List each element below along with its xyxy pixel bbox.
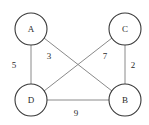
graph-node-c: C	[109, 13, 141, 45]
node-label-b: B	[122, 95, 128, 105]
node-label-d: D	[28, 95, 35, 105]
edge-weight-a-b: 3	[47, 51, 52, 61]
graph-node-d: D	[15, 84, 47, 116]
edge-weight-c-b: 2	[131, 60, 136, 70]
graph-node-a: A	[15, 13, 47, 45]
edge-weight-a-d: 5	[12, 60, 17, 70]
edge-weight-d-b: 9	[74, 108, 79, 118]
graph-diagram-figure: ACDB 53729	[0, 0, 149, 125]
graph-canvas: ACDB 53729	[0, 0, 149, 125]
graph-node-b: B	[109, 84, 141, 116]
edges-group	[31, 38, 125, 100]
node-label-a: A	[28, 24, 35, 34]
edge-weight-c-d: 7	[103, 51, 108, 61]
node-label-c: C	[122, 24, 128, 34]
